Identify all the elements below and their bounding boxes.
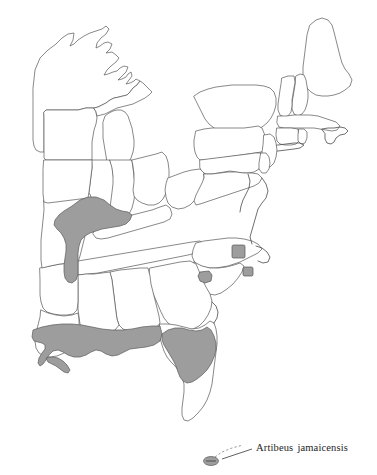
georgia-coast-detail xyxy=(212,302,218,323)
atlantic-coast-detail xyxy=(250,178,268,244)
range-louisiana-delta xyxy=(46,357,70,373)
species-label-genus: Artibeus xyxy=(256,442,293,453)
distribution-map-figure: Artibeusjamaicensis xyxy=(0,0,377,475)
label-leader-group xyxy=(215,445,252,459)
state-new-york xyxy=(194,85,276,134)
state-maine xyxy=(303,18,352,96)
locality-marker-coastal-carolina xyxy=(243,267,253,276)
species-label: Artibeusjamaicensis xyxy=(256,442,348,453)
state-rhode-island xyxy=(298,129,307,144)
species-label-species: jamaicensis xyxy=(297,442,348,453)
map-svg xyxy=(0,0,377,475)
state-virginia xyxy=(194,172,262,205)
state-iowa xyxy=(43,160,92,203)
state-ohio xyxy=(132,152,169,205)
locality-marker-south-carolina xyxy=(198,271,212,283)
state-connecticut xyxy=(276,128,299,145)
state-wisconsin xyxy=(44,108,97,160)
state-delaware xyxy=(259,153,270,173)
label-leader-dashes xyxy=(215,445,243,457)
locality-marker-north-carolina xyxy=(232,245,245,258)
